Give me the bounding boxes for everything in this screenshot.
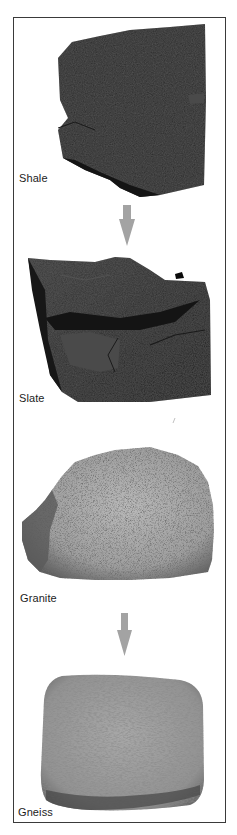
gneiss-rock-image: [41, 675, 204, 811]
stray-mark: [173, 418, 175, 423]
granite-rock-image: [22, 447, 214, 580]
rock-label-shale: Shale: [19, 172, 48, 184]
shale-rock-image: [58, 24, 206, 197]
rock-label-gneiss: Gneiss: [18, 806, 53, 818]
slate-rock-image: [28, 257, 211, 402]
down-arrow-icon: [119, 205, 135, 246]
rock-label-slate: Slate: [19, 392, 45, 404]
down-arrow-icon: [117, 613, 132, 656]
rock-label-granite: Granite: [20, 592, 57, 604]
